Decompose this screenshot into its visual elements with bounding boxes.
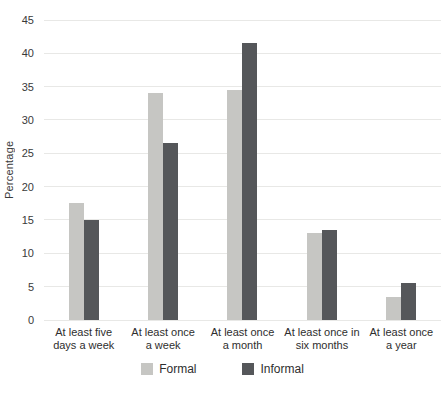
bar-group (69, 20, 99, 320)
bar-group (148, 20, 178, 320)
bar-group (386, 20, 416, 320)
y-tick-label: 30 (22, 114, 34, 126)
y-tick-label: 0 (28, 314, 34, 326)
y-tick-label: 40 (22, 47, 34, 59)
bar-chart: Percentage 051015202530354045 At least f… (0, 0, 445, 397)
formal-bar (148, 93, 163, 320)
legend: Formal Informal (0, 362, 445, 376)
x-category-label: At least once a week (123, 326, 202, 352)
y-axis-ticks: 051015202530354045 (0, 20, 38, 320)
bar-group (227, 20, 257, 320)
x-category-label: At least once a year (362, 326, 441, 352)
formal-bar (386, 297, 401, 320)
formal-swatch-icon (141, 363, 153, 375)
formal-bar (69, 203, 84, 320)
informal-bar (401, 283, 416, 320)
legend-item-formal: Formal (141, 362, 196, 376)
informal-bar (163, 143, 178, 320)
plot-area (44, 20, 441, 320)
y-tick-label: 20 (22, 181, 34, 193)
legend-label-formal: Formal (159, 362, 196, 376)
y-tick-label: 35 (22, 81, 34, 93)
bars-row (44, 20, 441, 320)
formal-bar (307, 233, 322, 320)
bar-group (307, 20, 337, 320)
x-category-labels: At least five days a weekAt least once a… (44, 326, 441, 352)
y-tick-label: 10 (22, 247, 34, 259)
x-category-label: At least once a month (203, 326, 282, 352)
informal-bar (322, 230, 337, 320)
x-category-label: At least once in six months (282, 326, 361, 352)
informal-bar (242, 43, 257, 320)
formal-bar (227, 90, 242, 320)
informal-swatch-icon (242, 363, 254, 375)
y-tick-label: 15 (22, 214, 34, 226)
y-tick-label: 25 (22, 147, 34, 159)
legend-label-informal: Informal (260, 362, 303, 376)
x-category-label: At least five days a week (44, 326, 123, 352)
legend-item-informal: Informal (242, 362, 303, 376)
informal-bar (84, 220, 99, 320)
y-tick-label: 45 (22, 14, 34, 26)
y-tick-label: 5 (28, 281, 34, 293)
